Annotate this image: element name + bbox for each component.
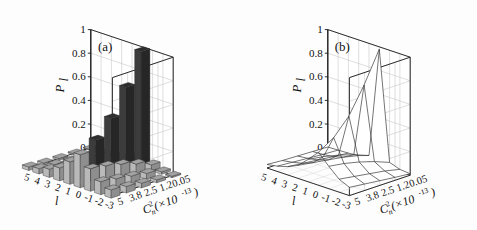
y-tick-label: 5 [116, 195, 125, 207]
bar-front-face [135, 50, 141, 168]
mesh3d-canvas: 00.20.40.60.81Pl543210-1-2-3l53.82.51.20… [237, 0, 477, 230]
bar-side-face [126, 85, 135, 173]
bar-front-face [84, 167, 90, 192]
z-tick-label: 0.6 [309, 70, 323, 82]
x-tick-label: -1 [83, 191, 95, 204]
z-tick-label: 0.4 [72, 94, 86, 106]
x-tick-label: 3 [280, 178, 288, 190]
x-tick-label: 5 [260, 171, 268, 183]
svg-text:P: P [289, 85, 304, 94]
z-axis-label: Pl [289, 78, 308, 94]
bar-front-face [64, 160, 70, 185]
x-tick-label: 2 [54, 181, 62, 193]
y-tick-label: 3.8 [364, 189, 380, 204]
x-tick-label: -2 [93, 195, 105, 208]
svg-text:-1: -1 [83, 191, 95, 204]
bar3d-panel: 00.20.40.60.81Pl543210-1-2-3l53.82.51.20… [0, 0, 240, 230]
mesh3d-panel: 00.20.40.60.81Pl543210-1-2-3l53.82.51.20… [237, 0, 477, 230]
z-axis-label: Pl [52, 78, 71, 94]
svg-text:5: 5 [23, 171, 31, 183]
svg-text:-13: -13 [180, 186, 193, 198]
x-tick-label: 5 [23, 171, 31, 183]
bar-front-face [74, 153, 80, 188]
svg-text:): ) [428, 185, 437, 200]
svg-text:2.5: 2.5 [380, 184, 396, 199]
svg-text:-2: -2 [330, 195, 342, 208]
svg-text:5: 5 [116, 195, 125, 207]
svg-text:0: 0 [74, 188, 82, 200]
svg-text:P: P [52, 85, 67, 94]
z-tick-label: 1 [317, 23, 323, 35]
svg-text:5: 5 [260, 171, 268, 183]
z-tick-label: 0.2 [72, 118, 86, 130]
z-tick-label: 0.8 [72, 47, 86, 59]
bar-front-face [95, 180, 101, 195]
x-tick-label: -3 [104, 198, 116, 211]
svg-text:l: l [293, 78, 308, 82]
svg-text:5: 5 [353, 195, 362, 207]
svg-text:l: l [55, 194, 59, 208]
z-tick-label: 0.2 [309, 118, 323, 130]
x-tick-label: 0 [74, 188, 82, 200]
x-tick-label: 2 [291, 181, 299, 193]
panel-tag-a: (a) [98, 39, 112, 54]
x-tick-label: 4 [270, 175, 279, 187]
figure-root: 00.20.40.60.81Pl543210-1-2-3l53.82.51.20… [0, 0, 477, 230]
bar [120, 82, 135, 172]
svg-text:2: 2 [54, 181, 62, 193]
z-tick-label: 0.8 [309, 47, 323, 59]
z-tick-label: 0.6 [72, 70, 86, 82]
x-tick-label: 0 [311, 188, 319, 200]
x-tick-label: -3 [341, 198, 353, 211]
y-tick-label: 5 [353, 195, 362, 207]
svg-text:-13: -13 [417, 186, 430, 198]
svg-text:l: l [56, 78, 71, 82]
svg-text:1: 1 [64, 185, 72, 197]
x-tick-label: 1 [64, 185, 72, 197]
x-tick-label: 3 [43, 178, 51, 190]
svg-text:-3: -3 [104, 198, 116, 211]
svg-text:4: 4 [270, 175, 279, 187]
z-tick-label: 0.4 [309, 94, 323, 106]
panel-tag-b: (b) [335, 39, 350, 54]
svg-text:-3: -3 [341, 198, 353, 211]
bar-side-face [141, 49, 150, 168]
bar-front-face [53, 166, 59, 181]
bar [135, 47, 150, 168]
svg-text:1: 1 [301, 185, 309, 197]
svg-text:l: l [292, 194, 296, 208]
svg-text:3: 3 [280, 178, 288, 190]
x-tick-label: 4 [33, 175, 42, 187]
svg-text:2: 2 [291, 181, 299, 193]
x-axis-label: l [292, 194, 296, 208]
x-axis-label: l [55, 194, 59, 208]
z-tick-label: 1 [80, 23, 86, 35]
svg-text:-1: -1 [320, 191, 332, 204]
svg-text:3: 3 [43, 178, 51, 190]
svg-text:0: 0 [311, 188, 319, 200]
svg-text:): ) [191, 185, 200, 200]
svg-text:3.8: 3.8 [364, 189, 380, 204]
x-tick-label: 1 [301, 185, 309, 197]
y-tick-label: 2.5 [380, 184, 396, 199]
svg-text:4: 4 [33, 175, 42, 187]
bar3d-canvas: 00.20.40.60.81Pl543210-1-2-3l53.82.51.20… [0, 0, 240, 230]
bar [105, 185, 120, 198]
x-tick-label: -1 [320, 191, 332, 204]
x-tick-label: -2 [330, 195, 342, 208]
svg-text:-2: -2 [93, 195, 105, 208]
bar-front-face [120, 85, 126, 172]
